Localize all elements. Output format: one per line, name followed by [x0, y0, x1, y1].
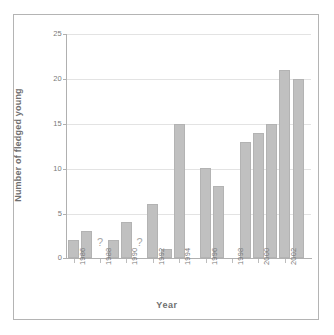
missing-marker-1988: ?: [95, 237, 106, 248]
y-tick-5: [63, 214, 67, 215]
y-tick-label-10: 10: [53, 165, 62, 173]
y-tick-15: [63, 124, 67, 125]
bar-2001: [266, 124, 277, 258]
y-tick-labels: 25 20 15 10 5 0: [36, 0, 62, 335]
x-tick-label-1988: 1988: [104, 248, 113, 266]
y-tick-10: [63, 169, 67, 170]
x-tick-1994: [179, 259, 180, 263]
x-tick-label-1994: 1994: [183, 248, 192, 266]
x-tick-label-1986: 1986: [78, 248, 87, 266]
bar-2000: [253, 133, 264, 258]
y-tick-label-5: 5: [58, 210, 62, 218]
y-tick-label-20: 20: [53, 75, 62, 83]
bar-2003: [293, 79, 304, 258]
bar-1994: [174, 124, 185, 258]
bar-2002: [279, 70, 290, 258]
x-tick-2000: [258, 259, 259, 263]
chart-figure: ? ? 25 20 15 10 5 0 1986 1988 1990 1992 …: [0, 0, 334, 335]
gridline-25: [67, 34, 311, 35]
y-tick-25: [63, 34, 67, 35]
y-tick-label-0: 0: [58, 254, 62, 262]
y-tick-label-25: 25: [53, 30, 62, 38]
x-tick-label-1996: 1996: [210, 248, 219, 266]
bar-1999: [240, 142, 251, 258]
x-tick-1996: [206, 259, 207, 263]
x-tick-label-1992: 1992: [157, 248, 166, 266]
x-tick-2002: [285, 259, 286, 263]
gridline-20: [67, 79, 311, 80]
x-tick-1986: [74, 259, 75, 263]
x-axis-title: Year: [0, 300, 334, 310]
y-tick-label-15: 15: [53, 120, 62, 128]
x-tick-1992: [153, 259, 154, 263]
x-tick-label-2000: 2000: [262, 248, 271, 266]
x-tick-1988: [100, 259, 101, 263]
missing-marker-1991: ?: [134, 237, 145, 248]
y-axis-title: Number of fledged young: [13, 65, 23, 225]
plot-area: ? ?: [67, 34, 311, 258]
x-tick-label-1998: 1998: [236, 248, 245, 266]
x-tick-label-2002: 2002: [289, 248, 298, 266]
y-tick-20: [63, 79, 67, 80]
x-tick-label-1990: 1990: [130, 248, 139, 266]
x-tick-1998: [232, 259, 233, 263]
bar-1996: [200, 168, 211, 258]
x-tick-1990: [126, 259, 127, 263]
